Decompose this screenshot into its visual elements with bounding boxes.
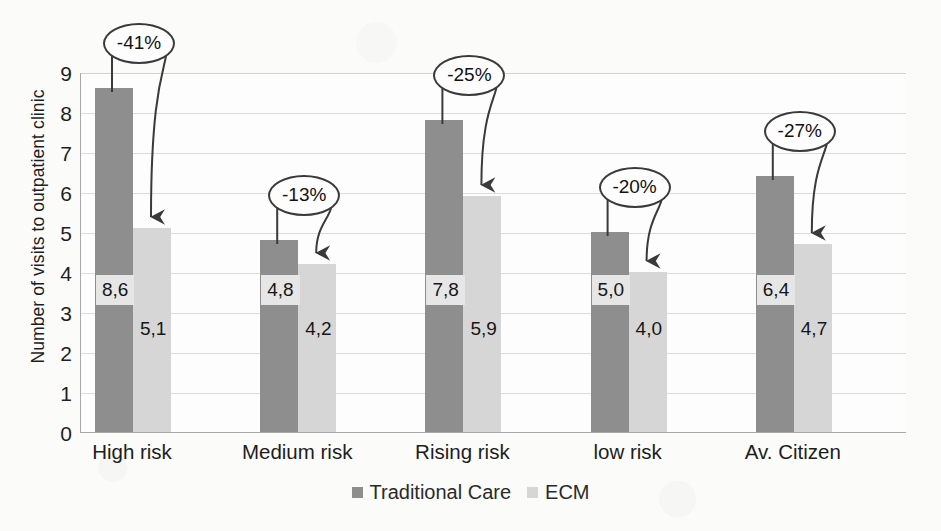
value-label: 5,9 [470, 319, 496, 338]
category-label: High risk [92, 440, 172, 464]
bar-light [463, 196, 501, 432]
y-tick-label: 3 [10, 303, 72, 324]
category-label: low risk [593, 440, 661, 464]
category-label: Medium risk [242, 440, 353, 464]
bar-dark [95, 88, 133, 432]
category-label: Rising risk [415, 440, 510, 464]
percent-change-callout: -41% [103, 23, 175, 64]
bar-light [298, 264, 336, 432]
value-label: 4,8 [261, 275, 299, 305]
percent-change-callout: -13% [268, 175, 340, 216]
y-tick-label: 8 [10, 103, 72, 124]
legend-item[interactable]: ECM [527, 481, 589, 504]
category-label: Av. Citizen [745, 440, 841, 464]
value-label: 4,2 [305, 319, 331, 338]
y-tick-label: 0 [10, 423, 72, 444]
bar-dark [260, 240, 298, 432]
y-tick-label: 4 [10, 263, 72, 284]
y-tick-label: 9 [10, 63, 72, 84]
bar-light [629, 272, 667, 432]
y-tick-label: 7 [10, 143, 72, 164]
legend-label: Traditional Care [370, 481, 512, 504]
legend-swatch-icon [352, 487, 363, 498]
gridline [81, 153, 906, 154]
percent-change-callout: -27% [764, 111, 836, 152]
value-label: 5,1 [140, 319, 166, 338]
legend-label: ECM [545, 481, 589, 504]
value-label: 6,4 [757, 275, 795, 305]
legend-swatch-icon [527, 487, 538, 498]
y-axis-tick-labels: 0123456789 [0, 0, 72, 531]
y-tick-label: 5 [10, 223, 72, 244]
chart-canvas: Number of visits to outpatient clinic 01… [0, 0, 941, 531]
y-tick-label: 1 [10, 383, 72, 404]
value-label: 8,6 [96, 275, 134, 305]
percent-change-callout: -20% [599, 167, 671, 208]
value-label: 5,0 [592, 275, 630, 305]
percent-change-callout: -25% [433, 55, 505, 96]
chart-legend: Traditional CareECM [0, 481, 941, 504]
value-label: 4,0 [636, 319, 662, 338]
value-label: 7,8 [426, 275, 464, 305]
value-label: 4,7 [801, 319, 827, 338]
legend-item[interactable]: Traditional Care [352, 481, 512, 504]
y-tick-label: 2 [10, 343, 72, 364]
bar-dark [591, 232, 629, 432]
y-tick-label: 6 [10, 183, 72, 204]
